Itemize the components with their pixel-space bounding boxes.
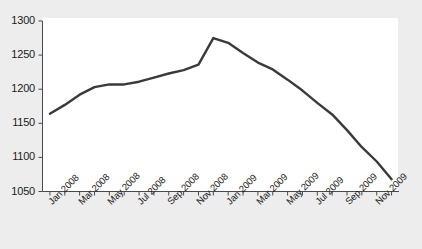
y-axis-tick-label: 1200 xyxy=(1,82,35,94)
y-axis-tick-label: 1100 xyxy=(1,150,35,162)
line-chart: 130012501200115011001050 Jan 2008Mar 200… xyxy=(0,0,422,249)
y-axis-ticks xyxy=(39,21,43,192)
y-axis-tick-label: 1150 xyxy=(1,116,35,128)
y-axis-tick-label: 1300 xyxy=(1,14,35,26)
plot-background xyxy=(42,18,398,192)
x-axis-ticks xyxy=(50,192,392,196)
y-axis-tick-label: 1250 xyxy=(1,48,35,60)
plot-canvas xyxy=(0,0,422,249)
y-axis-tick-label: 1050 xyxy=(1,185,35,197)
